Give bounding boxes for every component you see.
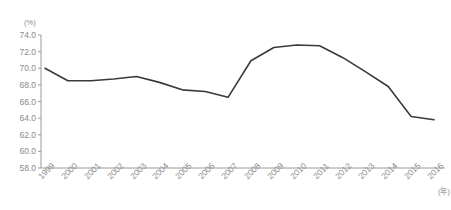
axis-lines bbox=[41, 35, 445, 168]
plot-area bbox=[0, 0, 451, 210]
data-series-line bbox=[45, 45, 434, 120]
line-chart: (%) 74.072.070.068.066.064.062.060.058.0… bbox=[0, 0, 451, 210]
